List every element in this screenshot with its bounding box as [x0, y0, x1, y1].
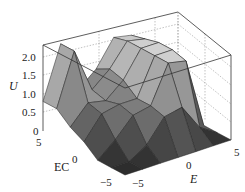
z-tick-1-5: 1.5 [22, 70, 36, 81]
e-axis-title: E [190, 173, 197, 185]
ec-tick-5: 5 [36, 137, 42, 148]
z-axis-title: U [9, 80, 18, 92]
ec-tick-0: 0 [72, 154, 78, 165]
z-tick-2-0: 2.0 [22, 52, 36, 63]
z-tick-0-5: 0.5 [22, 107, 36, 118]
z-tick-1-0: 1.0 [22, 89, 36, 100]
e-tick-0: 0 [186, 160, 192, 171]
ec-tick-minus5: −5 [100, 177, 112, 188]
e-tick-5: 5 [234, 147, 240, 158]
ec-axis-title: EC [54, 161, 69, 173]
e-tick-minus5: −5 [132, 178, 144, 189]
surface-plot [0, 0, 245, 192]
